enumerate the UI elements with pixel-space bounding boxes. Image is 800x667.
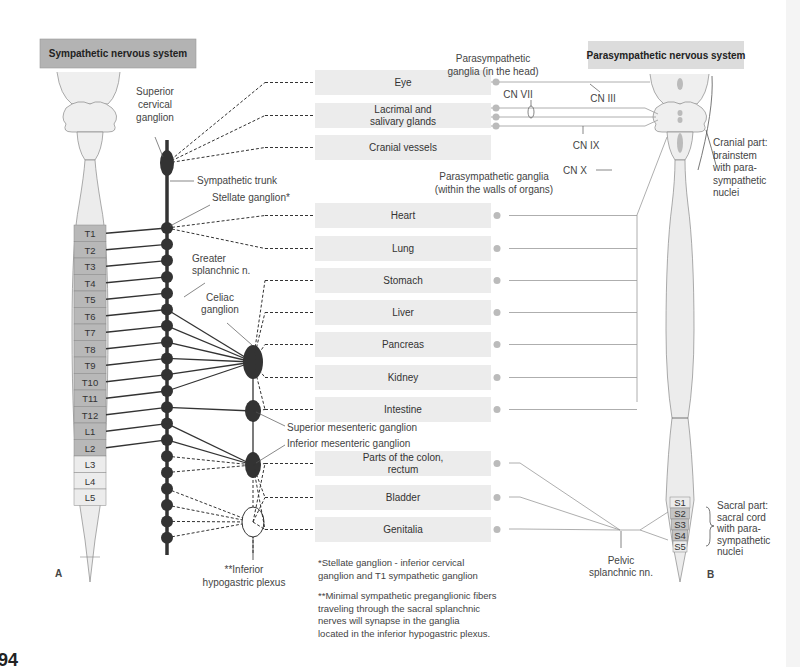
organ-cranial-vessels: Cranial vessels xyxy=(265,135,491,160)
organ-lung: Lung xyxy=(265,236,501,261)
organ-label: Cranial vessels xyxy=(369,142,437,153)
page-edge xyxy=(786,0,800,667)
sacral-segment-label: S5 xyxy=(674,541,686,552)
parasympathetic-ganglion-dot xyxy=(494,341,501,348)
segment-label: T10 xyxy=(82,377,98,388)
organ-label: Genitalia xyxy=(383,524,423,535)
parasympathetic-ganglion-dot xyxy=(494,245,501,252)
footnote-minimal-line: **Minimal sympathetic preganglionic fibe… xyxy=(318,590,497,601)
panel-label-a: A xyxy=(55,568,62,579)
superior-cervical-ganglion-label: Superiorcervicalganglion xyxy=(136,86,174,123)
cn-iii-label-line: CN III xyxy=(590,93,616,104)
sacral-part-label-line: sacral cord xyxy=(717,512,766,523)
superior-cervical-ganglion-label-line: ganglion xyxy=(136,112,174,123)
panel-label-b: B xyxy=(707,569,714,580)
right-cord: S1S2S3S4S5 xyxy=(650,74,716,582)
splanchnic-nerve xyxy=(167,326,253,362)
sacral-part-label-line: sympathetic xyxy=(717,535,770,546)
splanchnic-nerve xyxy=(167,407,253,411)
cranial-parasympathetic-ganglion xyxy=(493,79,500,86)
segment-label: L4 xyxy=(85,476,96,487)
organ-label: Bladder xyxy=(386,492,421,503)
organ-label: Lacrimal and xyxy=(374,104,431,115)
autonomic-nervous-system-diagram: Sympathetic nervous system Parasympathet… xyxy=(0,0,800,667)
parasympathetic-ganglion-dot xyxy=(494,277,501,284)
organ-bladder: Bladder xyxy=(265,485,501,510)
cn-iii-pointer xyxy=(590,84,600,92)
segment-label: T7 xyxy=(84,327,95,338)
left-brain-cerebrum xyxy=(57,72,120,104)
pelvic-splanchnic-label: Pelvicsplanchnic nn. xyxy=(589,555,653,578)
sympathetic-header: Sympathetic nervous system xyxy=(49,48,187,59)
footnote-minimal-line: nerves will synapse in the ganglia xyxy=(318,615,460,626)
segment-label: L3 xyxy=(85,459,96,470)
superior-cervical-ganglion-label-line: cervical xyxy=(138,99,172,110)
segment-label: T3 xyxy=(84,261,95,272)
parasympathetic-ganglion-dot xyxy=(494,406,501,413)
inferior-mesenteric-label-line: Inferior mesenteric ganglion xyxy=(287,438,410,449)
footnote-stellate-line: ganglion and T1 sympathetic ganglion xyxy=(318,570,478,581)
footnote-stellate: *Stellate ganglion - inferior cervicalga… xyxy=(318,557,478,581)
pelvic-branch xyxy=(509,497,620,530)
right-brainstem-pons xyxy=(653,102,707,132)
cn-vii-label-line: CN VII xyxy=(503,89,532,100)
sympathetic-postganglionic xyxy=(167,148,265,164)
splanchnic-nerve xyxy=(167,310,253,363)
splanchnic-nerve xyxy=(167,362,253,391)
celiac-ganglion-label-line: Celiac xyxy=(206,292,234,303)
greater-splanchnic-label-line: Greater xyxy=(192,253,227,264)
cn-x-label: CN X xyxy=(563,165,587,176)
organ-heart: Heart xyxy=(265,203,501,228)
organ-label: Kidney xyxy=(388,372,419,383)
pelvic-splanchnic-root xyxy=(640,530,668,540)
splanchnic-nerve xyxy=(167,362,253,375)
organ-kidney: Kidney xyxy=(265,365,501,390)
organ-intestine: Intestine xyxy=(265,397,501,422)
parasympathetic-ganglion-dot xyxy=(494,212,501,219)
organ-label: Heart xyxy=(391,210,416,221)
organ-pancreas: Pancreas xyxy=(265,332,501,357)
cn-iii-nucleus xyxy=(677,78,683,90)
segment-label: T5 xyxy=(84,294,95,305)
white-ramus xyxy=(106,342,167,349)
sacral-part-brace xyxy=(706,507,714,546)
white-ramus xyxy=(106,407,167,414)
segment-label: L1 xyxy=(85,426,96,437)
cn-vii-label: CN VII xyxy=(503,89,532,100)
organ-label: Pancreas xyxy=(382,339,424,350)
sympathetic-postganglionic xyxy=(167,228,265,249)
segment-label: T9 xyxy=(84,360,95,371)
segment-label: T11 xyxy=(82,393,98,404)
stellate-ganglion-label-line: Stellate ganglion* xyxy=(212,192,290,203)
greater-splanchnic-label-line: splanchnic n. xyxy=(192,265,250,276)
organ-parts-of-the-colon-rectum: Parts of the colon,rectum xyxy=(265,451,501,476)
organ-label: Stomach xyxy=(383,275,422,286)
inferior-mesenteric-label: Inferior mesenteric ganglion xyxy=(287,438,410,449)
sacral-part-label-line: with para- xyxy=(716,523,761,534)
sacral-part-label-line: nuclei xyxy=(717,546,743,557)
vagus-nerve xyxy=(637,137,667,402)
celiac-pointer xyxy=(227,323,252,345)
white-ramus xyxy=(106,293,167,299)
sympathetic-trunk xyxy=(106,140,264,560)
segment-label: L2 xyxy=(85,443,96,454)
img-pointer xyxy=(256,445,285,463)
cranial-part-label-line: nuclei xyxy=(713,187,739,198)
segment-label: T1 xyxy=(84,228,95,239)
sacral-segment-label: S1 xyxy=(674,497,686,508)
para-head-label-line: Parasympathetic xyxy=(456,53,530,64)
sympathetic-trunk-label: Sympathetic trunk xyxy=(197,175,278,186)
cn-x-label-line: CN X xyxy=(563,165,587,176)
sacral-splanchnic xyxy=(167,521,253,522)
superior-cervical-ganglion-label-line: Superior xyxy=(136,86,174,97)
page-number: 94 xyxy=(0,650,18,667)
pelvic-splanchnic-label-line: splanchnic nn. xyxy=(589,567,653,578)
superior-mesenteric-label-line: Superior mesenteric ganglion xyxy=(287,422,417,433)
sacral-splanchnic xyxy=(167,522,253,538)
para-walls-label: Parasympathetic ganglia(within the walls… xyxy=(435,171,553,195)
cranial-part-label-line: brainstem xyxy=(713,150,757,161)
smg-pointer xyxy=(256,412,285,426)
cranial-part-label-line: sympathetic xyxy=(713,175,766,186)
white-ramus xyxy=(106,228,167,233)
parasympathetic-ganglion-dot xyxy=(494,309,501,316)
